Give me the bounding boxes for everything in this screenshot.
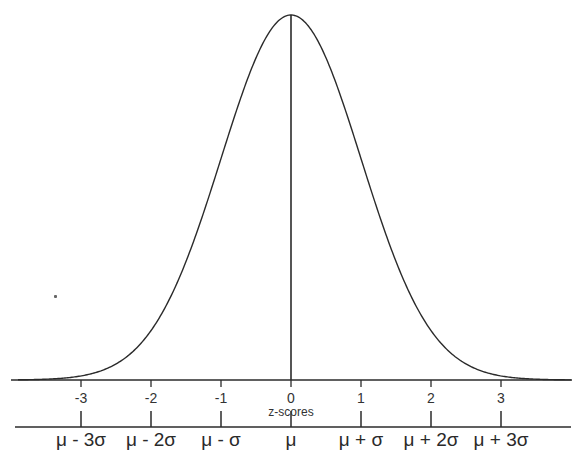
- z-tick-label: -2: [145, 390, 157, 406]
- bell-curve: [18, 15, 571, 380]
- z-tick-label: -1: [215, 390, 227, 406]
- z-axis-ticks: [81, 380, 501, 387]
- z-tick-label: 2: [427, 390, 435, 406]
- sigma-tick-label: μ - σ: [201, 429, 241, 451]
- sigma-tick-label: μ - 2σ: [126, 429, 176, 451]
- noise-speck: [54, 295, 57, 298]
- z-axis-title: z-scores: [268, 405, 313, 419]
- z-tick-label: 3: [497, 390, 505, 406]
- sigma-tick-label: μ + 3σ: [474, 429, 529, 451]
- sigma-tick-label: μ: [286, 429, 297, 451]
- z-tick-label: 1: [357, 390, 365, 406]
- z-tick-label: -3: [75, 390, 87, 406]
- z-tick-label: 0: [287, 390, 295, 406]
- sigma-tick-label: μ - 3σ: [56, 429, 106, 451]
- sigma-tick-label: μ + σ: [339, 429, 383, 451]
- sigma-tick-label: μ + 2σ: [404, 429, 459, 451]
